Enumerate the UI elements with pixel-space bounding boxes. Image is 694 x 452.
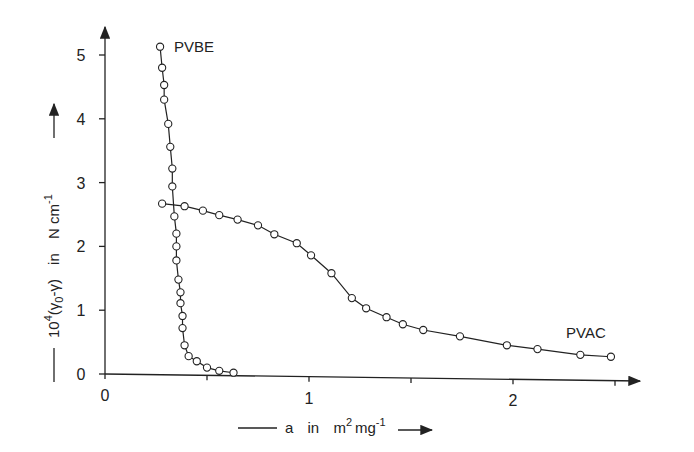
y-tick-label: 0	[77, 366, 86, 383]
data-point-marker	[159, 200, 166, 207]
data-point-marker	[199, 207, 206, 214]
data-point-marker	[230, 369, 237, 376]
data-point-marker	[193, 358, 200, 365]
data-point-marker	[456, 333, 463, 340]
surface-pressure-chart: 012345 012 PVBE PVAC a in m2mg-1 104(γ0-…	[0, 0, 694, 452]
y-tick-label: 5	[77, 47, 86, 64]
data-point-marker	[399, 321, 406, 328]
x-tick-label: 1	[305, 390, 314, 407]
y-axis-title: 104(γ0-γ) in N cm-1	[42, 104, 65, 382]
data-point-marker	[177, 289, 184, 296]
data-point-marker	[534, 346, 541, 353]
data-point-marker	[607, 353, 614, 360]
data-point-marker	[328, 270, 335, 277]
y-tick-label: 3	[77, 175, 86, 192]
data-point-marker	[216, 367, 223, 374]
data-point-marker	[271, 231, 278, 238]
data-series	[156, 43, 614, 376]
x-title-text: a in m2mg-1	[285, 416, 386, 436]
series-label-pvbe: PVBE	[174, 38, 214, 55]
data-point-marker	[348, 294, 355, 301]
x-tick-label: 2	[509, 392, 518, 409]
x-tick-label: 0	[101, 387, 110, 404]
data-point-marker	[420, 326, 427, 333]
data-point-marker	[181, 203, 188, 210]
data-point-marker	[179, 312, 186, 319]
data-point-marker	[363, 305, 370, 312]
data-point-marker	[167, 143, 174, 150]
data-point-marker	[177, 300, 184, 307]
x-axis-line	[105, 374, 640, 381]
y-axis-ticks: 012345	[77, 47, 105, 383]
y-tick-label: 4	[77, 111, 86, 128]
data-point-marker	[293, 240, 300, 247]
data-point-marker	[185, 353, 192, 360]
data-point-marker	[173, 230, 180, 237]
x-axis: 012	[101, 374, 640, 409]
y-axis: 012345	[77, 27, 105, 383]
y-tick-label: 2	[77, 238, 86, 255]
data-point-marker	[503, 342, 510, 349]
series-line	[162, 204, 611, 357]
data-point-marker	[577, 351, 584, 358]
data-point-marker	[156, 43, 163, 50]
data-point-marker	[383, 314, 390, 321]
y-title-text: 104(γ0-γ) in N cm-1	[42, 194, 65, 338]
data-point-marker	[203, 364, 210, 371]
data-point-marker	[171, 213, 178, 220]
data-point-marker	[173, 257, 180, 264]
data-point-marker	[165, 120, 172, 127]
x-axis-title: a in m2mg-1	[238, 416, 432, 436]
data-point-marker	[169, 183, 176, 190]
data-point-marker	[234, 216, 241, 223]
data-point-marker	[181, 342, 188, 349]
data-point-marker	[216, 212, 223, 219]
data-point-marker	[169, 165, 176, 172]
y-tick-label: 1	[77, 302, 86, 319]
data-point-marker	[173, 243, 180, 250]
data-point-marker	[307, 252, 314, 259]
series-pvac	[159, 200, 615, 360]
data-point-marker	[161, 96, 168, 103]
data-point-marker	[179, 324, 186, 331]
data-point-marker	[254, 222, 261, 229]
data-point-marker	[161, 81, 168, 88]
series-label-pvac: PVAC	[566, 324, 606, 341]
data-point-marker	[175, 276, 182, 283]
data-point-marker	[159, 64, 166, 71]
